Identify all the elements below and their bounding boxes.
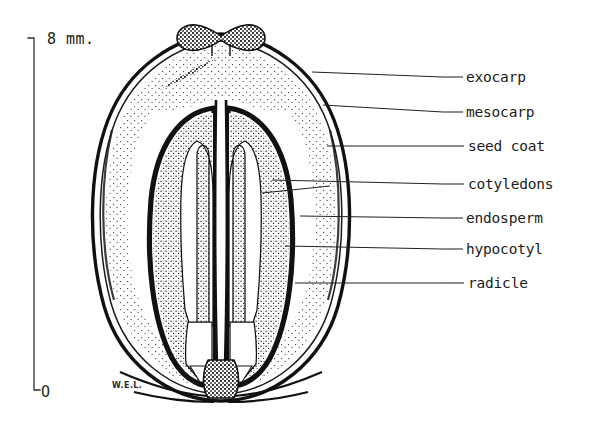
stipe-base bbox=[204, 360, 239, 398]
label-text-endosperm: endosperm bbox=[466, 210, 543, 226]
label-text-cotyledons: cotyledons bbox=[468, 176, 553, 192]
leader-line-mesocarp bbox=[323, 105, 443, 112]
label-exocarp[interactable]: exocarp bbox=[312, 69, 526, 85]
label-seedcoat[interactable]: seed coat bbox=[327, 138, 545, 154]
scale-top-label: 8 mm. bbox=[47, 30, 95, 48]
fruit-section-drawing: W.E.L. bbox=[92, 25, 349, 402]
scale-bar-line bbox=[28, 38, 40, 390]
label-mesocarp[interactable]: mesocarp bbox=[323, 104, 534, 120]
label-text-radicle: radicle bbox=[468, 275, 528, 291]
figure-page: 8 mm. O bbox=[0, 0, 590, 427]
label-text-exocarp: exocarp bbox=[466, 69, 526, 85]
label-text-seedcoat: seed coat bbox=[468, 138, 545, 154]
scale-bar: 8 mm. O bbox=[28, 30, 95, 401]
scale-bottom-label: O bbox=[41, 383, 50, 401]
leader-line-exocarp bbox=[312, 72, 443, 77]
label-text-mesocarp: mesocarp bbox=[466, 104, 534, 120]
artist-signature: W.E.L. bbox=[112, 381, 142, 390]
label-text-hypocotyl: hypocotyl bbox=[466, 241, 543, 257]
seed-diagram-svg: 8 mm. O bbox=[0, 0, 590, 427]
